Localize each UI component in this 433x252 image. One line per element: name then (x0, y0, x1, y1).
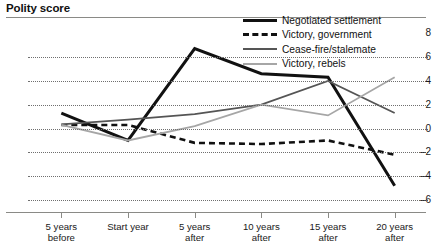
x-axis-tick-label-line1: 20 years (356, 221, 433, 232)
legend-item-label: Victory, government (282, 29, 372, 40)
y-axis-tick-label: 0 (425, 124, 431, 134)
y-axis-tick-label: 4 (425, 76, 431, 86)
x-axis-tick (328, 212, 329, 218)
legend-item[interactable]: Victory, rebels (243, 57, 431, 72)
x-axis-tick (128, 212, 129, 218)
legend-swatch-icon (243, 58, 277, 70)
y-axis-tick-label: 6 (425, 52, 431, 62)
y-axis-tick-label: –6 (420, 195, 431, 205)
y-axis-tick-label: 8 (425, 28, 431, 38)
x-axis-tick (261, 212, 262, 218)
legend-item[interactable]: Victory, government (243, 28, 431, 43)
legend-item-label: Victory, rebels (282, 58, 346, 69)
y-axis-tick-label: –2 (420, 147, 431, 157)
gridline (28, 152, 428, 153)
y-axis-tick-label: –4 (420, 171, 431, 181)
gridline (28, 129, 428, 130)
legend-item-label: Cease-fire/stalemate (282, 44, 376, 55)
gridline (28, 176, 428, 177)
x-axis-line (6, 212, 426, 213)
legend-swatch-icon (243, 43, 277, 55)
x-axis-tick-label: 20 yearsafter (356, 221, 433, 243)
x-axis-tick (395, 212, 396, 218)
polity-score-chart: Polity score 5 yearsbeforeStart year5 ye… (0, 0, 433, 252)
chart-legend: Negotiated settlementVictory, government… (243, 13, 431, 71)
legend-item[interactable]: Negotiated settlement (243, 13, 431, 28)
chart-title: Polity score (6, 2, 70, 14)
legend-item-label: Negotiated settlement (282, 15, 381, 26)
x-axis-tick (61, 212, 62, 218)
legend-swatch-icon (243, 14, 277, 26)
legend-swatch-icon (243, 29, 277, 41)
gridline (28, 105, 428, 106)
legend-item[interactable]: Cease-fire/stalemate (243, 42, 431, 57)
y-axis-tick-label: 2 (425, 100, 431, 110)
gridline (28, 81, 428, 82)
x-axis-tick-label-line2: after (356, 232, 433, 243)
x-axis-tick (195, 212, 196, 218)
gridline (28, 200, 428, 201)
x-axis-tick-label-line2: before (22, 232, 100, 243)
